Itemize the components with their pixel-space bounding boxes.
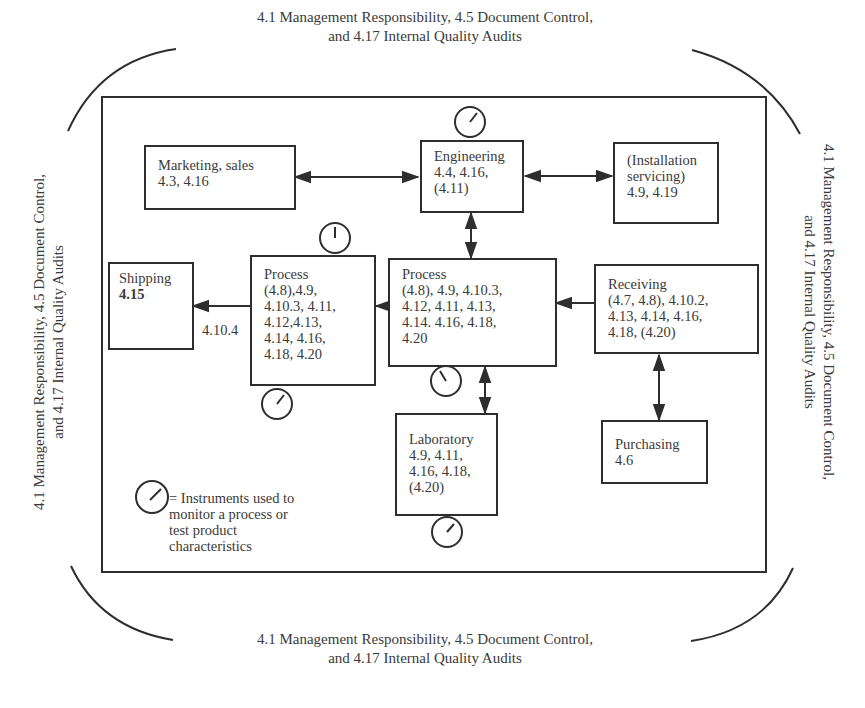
node-clauses: 4.15 [119, 286, 184, 302]
node-title: Purchasing [615, 436, 698, 452]
node-laboratory: Laboratory 4.9, 4.11, 4.16, 4.18, (4.20) [395, 413, 498, 516]
caption-right-line2: and 4.17 Internal Quality Audits [800, 132, 819, 492]
node-process-main: Process (4.8), 4.9, 4.10.3, 4.12, 4.11, … [388, 258, 557, 367]
caption-bottom-line2: and 4.17 Internal Quality Audits [205, 649, 645, 668]
node-clauses: 4.9, 4.19 [627, 184, 709, 200]
node-clauses: 4.4, 4.16, (4.11) [434, 164, 514, 196]
instrument-dial-icon [431, 366, 461, 396]
node-clauses: (4.8),4.9, 4.10.3, 4.11, 4.12,4.13, 4.14… [264, 282, 366, 362]
caption-top-line2: and 4.17 Internal Quality Audits [205, 27, 645, 46]
node-clauses: (4.8), 4.9, 4.10.3, 4.12, 4.11, 4.13, 4.… [402, 282, 547, 346]
node-shipping: Shipping 4.15 [108, 262, 194, 350]
node-title: Receiving [608, 276, 749, 292]
instrument-dial-icon [262, 389, 292, 419]
node-title: Process [264, 266, 366, 282]
node-title: Laboratory [409, 431, 488, 447]
node-title: (Installation servicing) [627, 152, 709, 184]
bracket-top-right [692, 50, 800, 134]
bracket-bottom-right [691, 568, 793, 641]
node-clauses: (4.7, 4.8), 4.10.2, 4.13, 4.14, 4.16, 4.… [608, 292, 749, 340]
node-clauses: 4.3, 4.16 [158, 173, 286, 189]
edge-label-process-shipping: 4.10.4 [202, 322, 238, 339]
bracket-bottom-left [71, 566, 173, 640]
node-marketing-sales: Marketing, sales 4.3, 4.16 [144, 145, 296, 210]
legend-text: = Instruments used to monitor a process … [169, 490, 294, 554]
caption-right: 4.1 Management Responsibility, 4.5 Docum… [800, 132, 838, 492]
caption-top: 4.1 Management Responsibility, 4.5 Docum… [205, 8, 645, 46]
node-title: Marketing, sales [158, 157, 286, 173]
caption-bottom-line1: 4.1 Management Responsibility, 4.5 Docum… [205, 630, 645, 649]
node-clauses: 4.6 [615, 452, 698, 468]
node-title: Engineering [434, 148, 514, 164]
instrument-dial-icon [455, 107, 485, 137]
instrument-dial-icon [320, 223, 350, 253]
node-process-final: Process (4.8),4.9, 4.10.3, 4.11, 4.12,4.… [250, 255, 376, 386]
caption-bottom: 4.1 Management Responsibility, 4.5 Docum… [205, 630, 645, 668]
caption-left-line2: and 4.17 Internal Quality Audits [49, 122, 68, 562]
instrument-dial-icon [432, 517, 462, 547]
legend-instrument-dial-icon [136, 481, 168, 513]
node-receiving: Receiving (4.7, 4.8), 4.10.2, 4.13, 4.14… [594, 264, 759, 354]
node-clauses: 4.9, 4.11, 4.16, 4.18, (4.20) [409, 447, 488, 495]
node-installation-servicing: (Installation servicing) 4.9, 4.19 [613, 142, 719, 224]
node-title: Shipping [119, 270, 184, 286]
caption-right-line1: 4.1 Management Responsibility, 4.5 Docum… [819, 132, 838, 492]
node-title: Process [402, 266, 547, 282]
node-purchasing: Purchasing 4.6 [601, 420, 708, 484]
node-engineering: Engineering 4.4, 4.16, (4.11) [420, 140, 524, 213]
caption-top-line1: 4.1 Management Responsibility, 4.5 Docum… [205, 8, 645, 27]
caption-left: 4.1 Management Responsibility, 4.5 Docum… [30, 122, 68, 562]
bracket-top-left [68, 49, 176, 131]
caption-left-line1: 4.1 Management Responsibility, 4.5 Docum… [30, 122, 49, 562]
